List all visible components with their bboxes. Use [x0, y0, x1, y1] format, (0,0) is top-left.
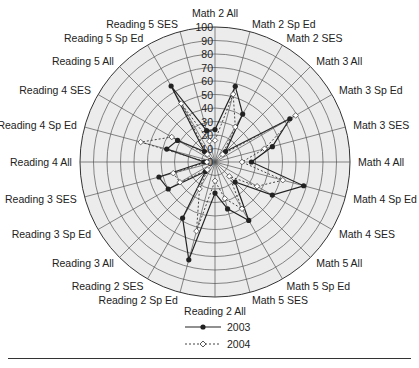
axis-label: Reading 2 All — [184, 305, 246, 317]
axis-label: Reading 4 SES — [19, 84, 91, 96]
tick-label: 90 — [201, 35, 213, 47]
data-point-2003 — [169, 83, 174, 88]
legend-label: 2004 — [227, 338, 250, 350]
axis-label: Math 4 All — [358, 156, 404, 168]
data-point-2003 — [204, 128, 209, 133]
radar-chart: 0102030405060708090100 Math 2 AllMath 2 … — [0, 0, 419, 318]
data-point-2003 — [270, 192, 275, 197]
data-point-2003 — [212, 127, 217, 132]
data-point-2003 — [301, 183, 306, 188]
axis-label: Math 4 Sp Ed — [353, 193, 417, 205]
axis-label: Math 5 SES — [252, 294, 308, 306]
axis-label: Reading 4 All — [10, 156, 72, 168]
axis-label: Reading 3 All — [52, 257, 114, 269]
legend-label: 2003 — [227, 321, 250, 333]
data-point-2003 — [233, 84, 238, 89]
data-point-2003 — [225, 206, 230, 211]
data-point-2003 — [232, 179, 237, 184]
axis-spokes — [80, 27, 350, 297]
axis-label: Math 2 SES — [287, 32, 343, 44]
bottom-divider — [8, 358, 411, 359]
axis-label: Reading 3 Sp Ed — [12, 228, 92, 240]
data-point-2003 — [180, 216, 185, 221]
axis-label: Math 3 SES — [353, 119, 409, 131]
axis-label: Reading 5 SES — [106, 18, 178, 30]
data-point-2003 — [287, 116, 292, 121]
tick-label: 100 — [195, 21, 213, 33]
axis-label: Reading 4 Sp Ed — [0, 119, 77, 131]
data-point-2003 — [175, 138, 180, 143]
axis-label: Reading 2 SES — [72, 280, 144, 292]
legend-item-2003: 2003 — [185, 318, 250, 335]
solid-line-circle-marker-icon — [185, 322, 221, 332]
legend: 2003 2004 — [185, 318, 250, 352]
axis-label: Reading 2 Sp Ed — [99, 294, 179, 306]
tick-label: 40 — [201, 102, 213, 114]
data-point-2003 — [246, 218, 251, 223]
tick-label: 50 — [201, 89, 213, 101]
axis-label: Math 3 Sp Ed — [339, 84, 403, 96]
tick-label: 60 — [201, 75, 213, 87]
axis-label: Reading 5 All — [52, 55, 114, 67]
axis-label: Math 5 All — [316, 257, 362, 269]
data-point-2003 — [164, 146, 169, 151]
axis-label: Math 2 All — [192, 7, 238, 19]
tick-label: 70 — [201, 62, 213, 74]
tick-label: 80 — [201, 48, 213, 60]
axis-label: Reading 5 Sp Ed — [64, 32, 144, 44]
data-point-2003 — [156, 174, 161, 179]
axis-label: Math 2 Sp Ed — [252, 18, 316, 30]
legend-item-2004: 2004 — [185, 335, 250, 352]
axis-label: Math 5 Sp Ed — [287, 280, 351, 292]
dashed-line-diamond-marker-icon — [185, 339, 221, 349]
data-point-2003 — [166, 186, 171, 191]
axis-label: Reading 3 SES — [5, 193, 77, 205]
data-point-2003 — [240, 111, 245, 116]
axis-label: Math 3 All — [316, 55, 362, 67]
data-point-2003 — [249, 159, 254, 164]
axis-label: Math 4 SES — [339, 228, 395, 240]
data-point-2003 — [212, 190, 217, 195]
data-point-2003 — [186, 257, 191, 262]
data-point-2003 — [270, 144, 275, 149]
